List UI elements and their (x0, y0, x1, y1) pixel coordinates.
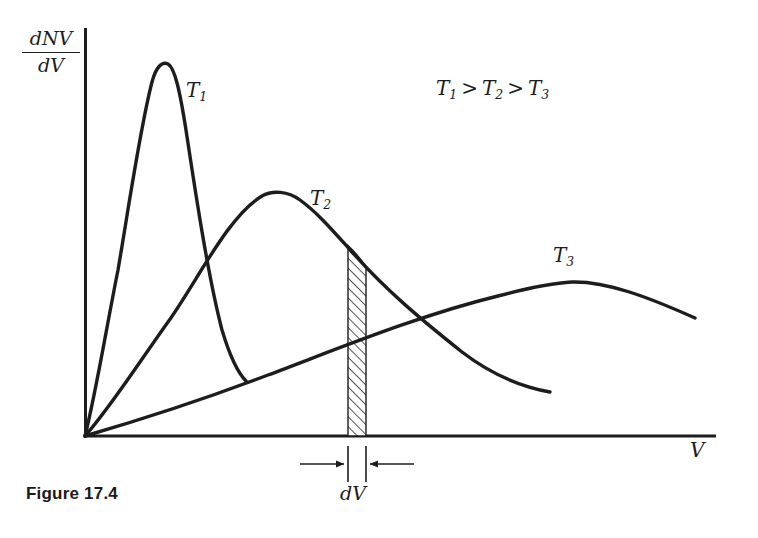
figure-page: dNV dV T1 T2 T3 T1>T2>T3 V dV Figure 17.… (0, 0, 758, 538)
dv-interval-label: dV (340, 484, 366, 503)
y-axis-label-numerator: dNV (22, 28, 80, 50)
curve-t2 (85, 192, 550, 436)
figure-caption: Figure 17.4 (26, 484, 118, 504)
curve-label-t3: T3 (553, 245, 574, 268)
y-axis-label-denominator: dV (22, 55, 80, 77)
temperature-inequality-annotation: T1>T2>T3 (436, 78, 549, 101)
curve-t3 (85, 282, 695, 436)
curve-label-t2: T2 (310, 188, 331, 211)
y-axis-label: dNV dV (22, 28, 80, 77)
curve-t1 (85, 63, 246, 436)
figure-graphic (0, 0, 758, 538)
curve-label-t1: T1 (186, 80, 207, 103)
fraction-bar (22, 52, 80, 54)
x-axis-label: V (690, 440, 704, 460)
